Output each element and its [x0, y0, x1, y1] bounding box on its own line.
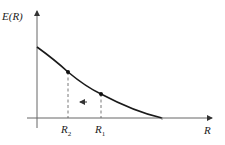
r1-point — [99, 92, 103, 96]
x-axis-label: R — [203, 124, 211, 136]
y-axis-label: E(R) — [1, 10, 23, 23]
r2-label: R2 — [60, 123, 72, 138]
energy-curve — [37, 47, 162, 118]
r2-point — [66, 70, 70, 74]
energy-diagram: E(R) R R2 R1 — [0, 0, 225, 145]
r1-label: R1 — [94, 123, 106, 138]
